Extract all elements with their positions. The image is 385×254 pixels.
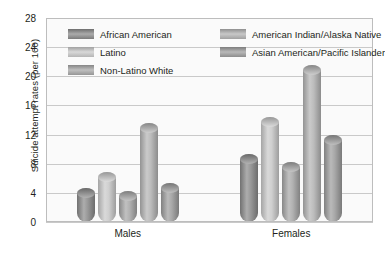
bar-body <box>161 188 179 222</box>
legend-label: Latino <box>100 47 126 58</box>
legend-item: Non-Latino White <box>68 62 204 78</box>
bar-body <box>282 167 300 222</box>
legend-swatch <box>68 47 94 57</box>
y-tick-label-4: 4 <box>30 187 36 198</box>
y-tick-label-0: 0 <box>30 217 36 228</box>
legend-label: African American <box>100 29 172 40</box>
y-tick-label-20: 20 <box>25 71 36 82</box>
gridline-0 <box>46 222 373 223</box>
bar-cap <box>119 191 137 201</box>
bar <box>98 172 116 222</box>
legend-label: Non-Latino White <box>100 65 173 76</box>
y-axis-tick-labels: 0481216202428 <box>0 18 40 222</box>
legend-swatch <box>68 29 94 39</box>
legend-swatch <box>220 47 246 57</box>
legend-column-left: African AmericanLatinoNon-Latino White <box>68 26 204 80</box>
bar-body <box>240 159 258 222</box>
bar <box>261 117 279 222</box>
bar-cap <box>324 135 342 145</box>
legend-item: Asian American/Pacific Islander <box>220 44 370 60</box>
legend-swatch <box>68 65 94 75</box>
y-tick-label-8: 8 <box>30 158 36 169</box>
bar-cap <box>77 188 95 198</box>
y-tick-label-12: 12 <box>25 129 36 140</box>
bar <box>77 188 95 222</box>
legend-column-right: American Indian/Alaska NativeAsian Ameri… <box>220 26 370 62</box>
bar <box>240 154 258 222</box>
legend-item: American Indian/Alaska Native <box>220 26 370 42</box>
legend-swatch <box>220 29 246 39</box>
bar-body <box>324 140 342 222</box>
bar-body <box>303 70 321 222</box>
legend-label: Asian American/Pacific Islander <box>252 47 385 58</box>
x-axis-label-males: Males <box>46 228 210 239</box>
bar <box>324 135 342 222</box>
legend-item: Latino <box>68 44 204 60</box>
y-tick-label-24: 24 <box>25 42 36 53</box>
y-tick-label-28: 28 <box>25 13 36 24</box>
bar-body <box>98 177 116 222</box>
y-tick-label-16: 16 <box>25 100 36 111</box>
x-axis-label-females: Females <box>210 228 374 239</box>
bar-cap <box>140 123 158 133</box>
bar-body <box>140 128 158 222</box>
bar <box>282 162 300 222</box>
legend-item: African American <box>68 26 204 42</box>
bar <box>303 65 321 222</box>
bar-body <box>261 122 279 222</box>
bar <box>119 191 137 222</box>
bar <box>161 183 179 222</box>
bar <box>140 123 158 222</box>
legend-label: American Indian/Alaska Native <box>252 29 381 40</box>
bar-cap <box>161 183 179 193</box>
